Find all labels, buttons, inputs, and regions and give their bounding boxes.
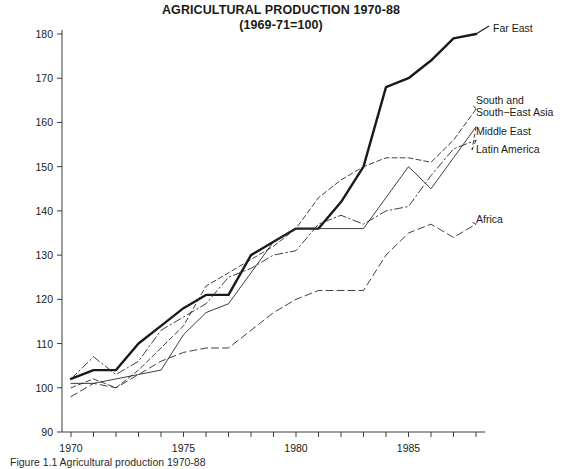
y-axis-tick-label: 140 bbox=[35, 205, 53, 217]
y-axis-tick-label: 170 bbox=[35, 72, 53, 84]
y-axis-tick-label: 110 bbox=[36, 338, 53, 350]
y-axis-tick-label: 100 bbox=[35, 382, 53, 394]
y-axis-tick-label: 90 bbox=[41, 426, 53, 438]
x-axis-tick-label: 1970 bbox=[59, 442, 83, 454]
x-axis-tick-label: 1985 bbox=[397, 442, 421, 454]
series-line-africa bbox=[71, 224, 476, 396]
agricultural-production-chart: AGRICULTURAL PRODUCTION 1970-88 (1969-71… bbox=[0, 0, 562, 469]
x-axis-tick-label: 1975 bbox=[172, 442, 196, 454]
y-axis-tick-label: 120 bbox=[35, 293, 53, 305]
series-label-middle-east: Middle East bbox=[476, 126, 531, 138]
y-axis-tick-label: 130 bbox=[35, 249, 53, 261]
y-axis-tick-label: 150 bbox=[35, 161, 53, 173]
y-axis-tick-label: 180 bbox=[35, 28, 53, 40]
series-line-south-and-south-east-asia bbox=[71, 109, 476, 388]
plot-area: 9010011012013014015016017018019701975198… bbox=[0, 0, 562, 469]
series-line-latin-america bbox=[71, 140, 476, 379]
series-leader-line bbox=[476, 26, 489, 34]
series-line-far-east bbox=[71, 34, 476, 379]
series-label-africa: Africa bbox=[476, 214, 503, 226]
y-axis-tick-label: 160 bbox=[35, 116, 53, 128]
series-line-middle-east bbox=[71, 127, 476, 383]
series-label-south-and-south-east-asia-line2: South−East Asia bbox=[476, 107, 553, 119]
figure-caption: Figure 1.1 Agricultural production 1970-… bbox=[10, 456, 206, 468]
series-label-latin-america: Latin America bbox=[476, 144, 540, 156]
x-axis-tick-label: 1980 bbox=[284, 442, 308, 454]
series-label-far-east: Far East bbox=[493, 23, 533, 35]
series-label-south-and-south-east-asia-line1: South and bbox=[476, 95, 524, 107]
